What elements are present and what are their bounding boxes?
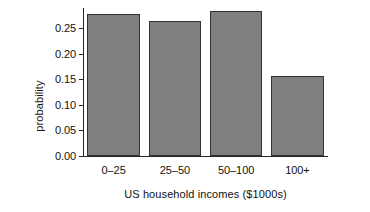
x-tick-label: 25–50 — [160, 164, 190, 176]
y-tick-mark — [79, 28, 83, 29]
y-tick-mark — [79, 130, 83, 131]
y-tick-label: 0.00 — [55, 150, 76, 162]
bar — [149, 21, 201, 156]
y-tick-mark — [79, 156, 83, 157]
x-tick-label: 0–25 — [102, 164, 126, 176]
y-axis-line — [83, 8, 84, 157]
x-tick-label: 100+ — [285, 164, 309, 176]
x-axis-title: US household incomes ($1000s) — [83, 188, 328, 200]
y-tick-label: 0.15 — [55, 73, 76, 85]
y-tick-label: 0.05 — [55, 124, 76, 136]
x-tick-label: 50–100 — [218, 164, 254, 176]
y-tick-mark — [79, 79, 83, 80]
plot-area: 0.000.050.100.150.200.25 0–2525–5050–100… — [83, 8, 328, 157]
y-tick-label: 0.10 — [55, 99, 76, 111]
y-tick-mark — [79, 54, 83, 55]
bar — [87, 14, 139, 156]
y-tick-label: 0.20 — [55, 48, 76, 60]
y-axis-title: probability — [26, 0, 52, 212]
x-axis-line — [83, 156, 328, 157]
y-tick-mark — [79, 105, 83, 106]
y-tick-label: 0.25 — [55, 22, 76, 34]
bar — [210, 11, 262, 156]
bar-chart-figure: probability 0.000.050.100.150.200.25 0–2… — [0, 0, 370, 212]
bar — [271, 76, 323, 156]
